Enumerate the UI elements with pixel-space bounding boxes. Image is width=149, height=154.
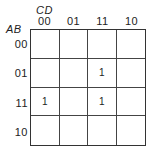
kmap-cell	[60, 59, 89, 88]
kmap-cell	[60, 30, 89, 59]
kmap-cell: 1	[88, 59, 117, 88]
kmap-cell	[60, 116, 89, 145]
kmap-cell	[117, 59, 146, 88]
kmap-cell	[31, 30, 60, 59]
kmap-cell	[31, 59, 60, 88]
kmap-cell	[117, 30, 146, 59]
kmap-cell	[31, 116, 60, 145]
column-header: 10	[117, 16, 146, 27]
row-variable-label: AB	[6, 24, 22, 35]
row-header: 10	[4, 127, 28, 138]
row-header: 11	[4, 98, 28, 109]
column-header: 00	[30, 16, 59, 27]
kmap-cell: 1	[88, 88, 117, 117]
kmap-cell	[60, 88, 89, 117]
kmap-cell	[117, 116, 146, 145]
column-header: 11	[88, 16, 117, 27]
kmap-cell	[88, 30, 117, 59]
karnaugh-map-grid: 1 1 1	[30, 29, 146, 146]
kmap-cell	[88, 116, 117, 145]
kmap-cell: 1	[31, 88, 60, 117]
row-header: 00	[4, 39, 28, 50]
kmap-cell	[117, 88, 146, 117]
row-header: 01	[4, 68, 28, 79]
column-header: 01	[59, 16, 88, 27]
